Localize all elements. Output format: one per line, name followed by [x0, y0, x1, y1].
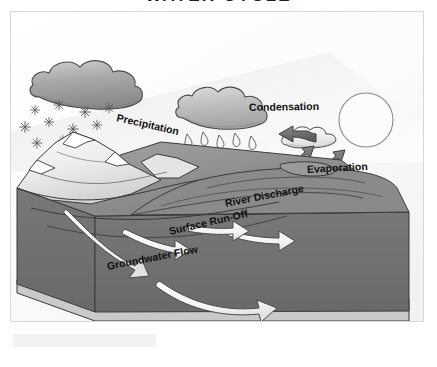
diagram-panel: Precipitation Condensation Evaporation R… [10, 11, 424, 322]
water-cycle-illustration [11, 12, 423, 321]
sun-icon [339, 93, 393, 147]
water-cycle-screenshot: WATER CYCLE [0, 0, 437, 367]
page-title: WATER CYCLE [0, 0, 437, 5]
footer-band [13, 334, 156, 347]
